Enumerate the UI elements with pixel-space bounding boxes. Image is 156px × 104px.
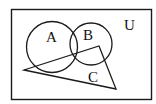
set-b-label: B [83,27,93,43]
universe-label: U [124,17,135,33]
venn-diagram: A B C U [0,0,156,104]
set-c-label: C [88,69,98,85]
set-a-label: A [46,29,57,45]
